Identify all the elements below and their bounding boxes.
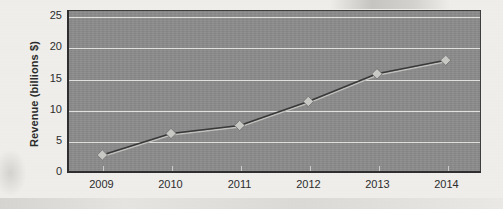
plot-area [67, 10, 481, 172]
x-axis-tick-label: 2012 [282, 178, 336, 190]
data-point-marker [234, 120, 244, 130]
data-point-marker [166, 128, 176, 138]
revenue-line-chart: Revenue (billions $) 0510152025 20092010… [0, 0, 503, 209]
x-axis-tick-label: 2009 [75, 178, 129, 190]
series-line-highlight [102, 62, 445, 157]
y-axis-tick-label: 20 [40, 41, 62, 52]
x-axis-tick-label: 2013 [351, 178, 405, 190]
series-revenue [68, 11, 480, 171]
y-axis-tick-label: 10 [40, 104, 62, 115]
y-axis-tick-labels: 0510152025 [36, 0, 62, 209]
data-point-marker [97, 150, 107, 160]
x-axis-tick-label: 2010 [144, 178, 198, 190]
x-axis-tick-label: 2014 [420, 178, 474, 190]
y-axis-tick-label: 15 [40, 73, 62, 84]
y-axis-tick-label: 5 [40, 135, 62, 146]
y-axis-tick-label: 25 [40, 10, 62, 21]
data-point-marker [440, 55, 450, 65]
y-axis-tick-label: 0 [40, 166, 62, 177]
x-axis-tick-label: 2011 [213, 178, 267, 190]
x-axis-line [67, 171, 481, 173]
y-axis-line [67, 10, 69, 173]
